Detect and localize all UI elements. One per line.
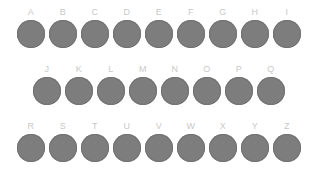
circle-dot-i[interactable] <box>273 20 301 48</box>
circle-label-z: Z <box>284 121 290 132</box>
circle-label-l: L <box>108 64 113 75</box>
circle-label-s: S <box>60 121 66 132</box>
circle-label-x: X <box>220 121 226 132</box>
circle-cell-g[interactable]: G <box>209 7 237 48</box>
circle-label-u: U <box>124 121 131 132</box>
circle-dot-h[interactable] <box>241 20 269 48</box>
circle-cell-v[interactable]: V <box>145 121 173 162</box>
circle-dot-p[interactable] <box>225 77 253 105</box>
circle-cell-a[interactable]: A <box>17 7 45 48</box>
circle-label-q: Q <box>267 64 274 75</box>
circle-label-e: E <box>156 7 162 18</box>
circle-label-m: M <box>139 64 147 75</box>
circle-label-i: I <box>286 7 289 18</box>
circle-cell-i[interactable]: I <box>273 7 301 48</box>
circle-cell-k[interactable]: K <box>65 64 93 105</box>
circle-cell-m[interactable]: M <box>129 64 157 105</box>
circle-dot-w[interactable] <box>177 134 205 162</box>
circle-dot-t[interactable] <box>81 134 109 162</box>
circle-row-2: JKLMNOPQ <box>33 64 285 114</box>
circle-dot-l[interactable] <box>97 77 125 105</box>
circle-cell-u[interactable]: U <box>113 121 141 162</box>
circle-cell-e[interactable]: E <box>145 7 173 48</box>
circle-dot-m[interactable] <box>129 77 157 105</box>
circle-cell-s[interactable]: S <box>49 121 77 162</box>
circle-dot-x[interactable] <box>209 134 237 162</box>
circle-cell-f[interactable]: F <box>177 7 205 48</box>
circle-label-v: V <box>156 121 162 132</box>
circle-dot-v[interactable] <box>145 134 173 162</box>
circle-cell-o[interactable]: O <box>193 64 221 105</box>
circle-dot-c[interactable] <box>81 20 109 48</box>
circle-label-y: Y <box>252 121 258 132</box>
circle-dot-j[interactable] <box>33 77 61 105</box>
circle-cell-l[interactable]: L <box>97 64 125 105</box>
circle-dot-b[interactable] <box>49 20 77 48</box>
circle-dot-f[interactable] <box>177 20 205 48</box>
circle-label-p: P <box>236 64 242 75</box>
circle-dot-k[interactable] <box>65 77 93 105</box>
circle-label-h: H <box>252 7 259 18</box>
circle-dot-d[interactable] <box>113 20 141 48</box>
circle-dot-r[interactable] <box>17 134 45 162</box>
circle-label-d: D <box>124 7 131 18</box>
circle-label-t: T <box>92 121 98 132</box>
circle-dot-e[interactable] <box>145 20 173 48</box>
circle-dot-a[interactable] <box>17 20 45 48</box>
circle-label-n: N <box>172 64 179 75</box>
circle-dot-q[interactable] <box>257 77 285 105</box>
circle-row-1: ABCDEFGHI <box>17 7 301 57</box>
circle-label-f: F <box>188 7 194 18</box>
circle-cell-p[interactable]: P <box>225 64 253 105</box>
circle-dot-z[interactable] <box>273 134 301 162</box>
circle-cell-t[interactable]: T <box>81 121 109 162</box>
circle-row-3: RSTUVWXYZ <box>17 121 301 171</box>
circle-label-c: C <box>92 7 99 18</box>
circle-dot-y[interactable] <box>241 134 269 162</box>
circle-cell-b[interactable]: B <box>49 7 77 48</box>
circle-label-g: G <box>219 7 226 18</box>
alphabet-circle-grid: ABCDEFGHIJKLMNOPQRSTUVWXYZ <box>0 0 323 175</box>
circle-cell-w[interactable]: W <box>177 121 205 162</box>
circle-dot-g[interactable] <box>209 20 237 48</box>
circle-label-j: J <box>45 64 50 75</box>
circle-cell-j[interactable]: J <box>33 64 61 105</box>
circle-dot-s[interactable] <box>49 134 77 162</box>
circle-cell-q[interactable]: Q <box>257 64 285 105</box>
circle-cell-d[interactable]: D <box>113 7 141 48</box>
circle-dot-o[interactable] <box>193 77 221 105</box>
circle-label-o: O <box>203 64 210 75</box>
circle-label-r: R <box>28 121 35 132</box>
circle-label-k: K <box>76 64 82 75</box>
circle-label-b: B <box>60 7 66 18</box>
circle-cell-n[interactable]: N <box>161 64 189 105</box>
circle-cell-r[interactable]: R <box>17 121 45 162</box>
circle-label-a: A <box>28 7 34 18</box>
circle-dot-u[interactable] <box>113 134 141 162</box>
circle-cell-z[interactable]: Z <box>273 121 301 162</box>
circle-cell-h[interactable]: H <box>241 7 269 48</box>
circle-cell-x[interactable]: X <box>209 121 237 162</box>
circle-cell-y[interactable]: Y <box>241 121 269 162</box>
circle-cell-c[interactable]: C <box>81 7 109 48</box>
circle-dot-n[interactable] <box>161 77 189 105</box>
circle-label-w: W <box>187 121 196 132</box>
